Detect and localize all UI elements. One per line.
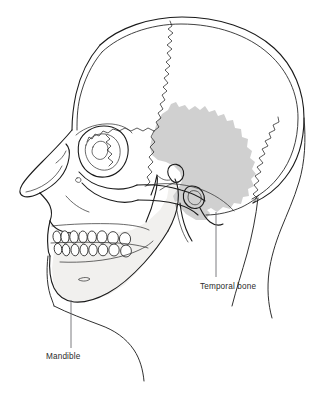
nasal-bone-profile — [20, 130, 72, 197]
temporal-bone-label: Temporal bone — [200, 282, 256, 291]
frontal-bone-inner-outline — [77, 52, 102, 130]
mental-protuberance — [48, 221, 50, 256]
tooth-lower — [109, 244, 119, 256]
tooth-lower — [80, 244, 89, 256]
zygomatic-bone-outline — [79, 172, 137, 189]
mandible-annotation: Mandible — [46, 300, 81, 361]
anterior-nasal-spine — [40, 193, 52, 221]
tooth-upper — [97, 231, 107, 243]
orbital-suture — [106, 135, 113, 166]
skull-diagram-figure: Temporal bone Mandible — [0, 0, 328, 393]
tooth-upper — [87, 231, 96, 243]
nasal-septum-detail — [56, 151, 66, 163]
nasal-aperture-inner — [26, 166, 62, 192]
tooth-upper — [52, 231, 62, 244]
orbit-inner-rim — [85, 134, 120, 170]
submental-contour — [54, 306, 144, 381]
zygomatic-body-lower — [82, 183, 138, 202]
superior-orbital-fissure — [92, 141, 108, 159]
tooth-upper — [78, 231, 87, 243]
tooth-lower — [98, 244, 108, 256]
skull-illustration: Temporal bone Mandible — [0, 0, 328, 393]
maxilla-canine-fossa — [66, 196, 89, 212]
mandibular-notch — [157, 175, 170, 180]
infraorbital-foramen — [76, 178, 82, 183]
temporal-bone-fill — [150, 102, 256, 212]
mandible-label: Mandible — [46, 352, 81, 361]
nasal-aperture — [40, 144, 69, 193]
frontal-bone-outline — [72, 45, 100, 130]
neck-posterior-contour — [268, 118, 305, 318]
tooth-lower — [89, 244, 98, 256]
